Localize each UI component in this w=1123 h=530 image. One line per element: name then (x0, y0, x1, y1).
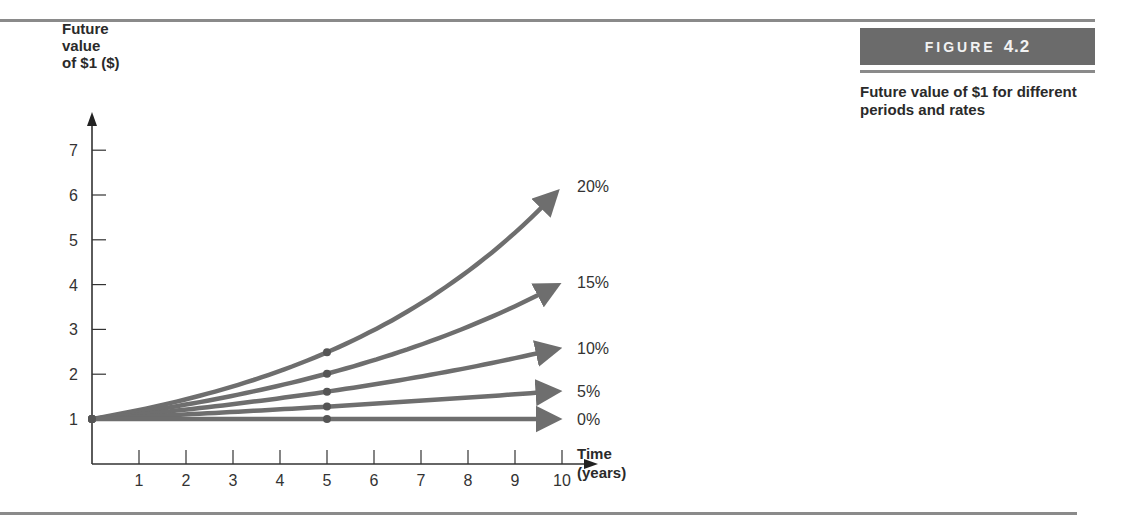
x-axis-title-line1: Time (577, 445, 612, 462)
series-labels: 20%15%10%5%0% (577, 178, 609, 428)
y-tick-label: 3 (69, 321, 78, 338)
y-tick-label: 2 (69, 366, 78, 383)
x-tick-label: 2 (182, 472, 191, 489)
y-tick-label: 7 (69, 142, 78, 159)
x-tick-label: 8 (464, 472, 473, 489)
x-axis-title-line2: (years) (577, 464, 626, 481)
data-point-marker (323, 370, 331, 378)
x-tick-label: 9 (511, 472, 520, 489)
y-tick-label: 5 (69, 232, 78, 249)
y-axis-arrow-icon (87, 112, 97, 126)
x-tick-label: 4 (276, 472, 285, 489)
x-tick-label: 7 (417, 472, 426, 489)
x-tick-label: 10 (553, 472, 571, 489)
data-point-marker (88, 415, 96, 423)
axes: 123456712345678910Time(years) (69, 112, 626, 489)
data-point-marker (323, 415, 331, 423)
y-tick-label: 4 (69, 277, 78, 294)
series-label-20pct: 20% (577, 178, 609, 195)
data-point-marker (323, 402, 331, 410)
y-tick-label: 6 (69, 187, 78, 204)
x-tick-label: 1 (135, 472, 144, 489)
data-point-marker (323, 348, 331, 356)
series-label-10pct: 10% (577, 340, 609, 357)
line-chart: 123456712345678910Time(years) 20%15%10%5… (0, 0, 1123, 530)
series-label-5pct: 5% (577, 383, 600, 400)
series-line-20pct (92, 195, 554, 419)
x-tick-label: 6 (370, 472, 379, 489)
series-label-15pct: 15% (577, 274, 609, 291)
x-tick-label: 5 (323, 472, 332, 489)
series-lines (88, 195, 554, 423)
x-tick-label: 3 (229, 472, 238, 489)
data-point-marker (323, 388, 331, 396)
y-tick-label: 1 (69, 411, 78, 428)
series-label-0pct: 0% (577, 411, 600, 428)
